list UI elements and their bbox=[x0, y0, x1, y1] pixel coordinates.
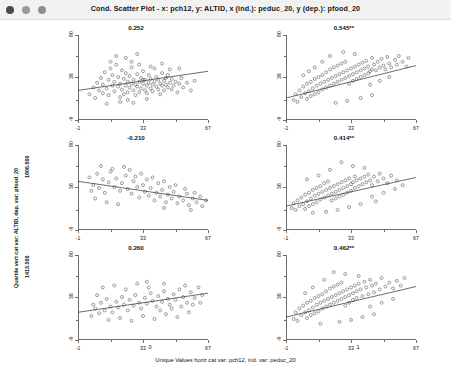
scatter-point bbox=[164, 83, 167, 86]
x-tick-label: 33 bbox=[140, 125, 146, 131]
scatter-point bbox=[155, 76, 158, 79]
scatter-point bbox=[185, 81, 188, 84]
scatter-point bbox=[371, 284, 374, 287]
scatter-point bbox=[336, 283, 339, 286]
scatter-point bbox=[355, 71, 358, 74]
scatter-point bbox=[311, 203, 314, 206]
scatter-point bbox=[369, 278, 372, 281]
scatter-point bbox=[130, 60, 133, 63]
scatter-point bbox=[313, 93, 316, 96]
regression-line bbox=[286, 287, 416, 318]
y-tick-label: 36 bbox=[68, 180, 74, 192]
scatter-point bbox=[88, 93, 91, 96]
scatter-point bbox=[344, 179, 347, 182]
scatter-point bbox=[172, 293, 175, 296]
scatter-point bbox=[353, 65, 356, 68]
scatter-point bbox=[124, 84, 127, 87]
scatter-point bbox=[117, 76, 120, 79]
scatter-points-layer bbox=[78, 35, 208, 120]
scatter-point bbox=[180, 76, 183, 79]
x-tick-label: 67 bbox=[205, 235, 211, 241]
scatter-point bbox=[147, 194, 150, 197]
x-minor-tick bbox=[176, 230, 177, 232]
scatter-point bbox=[315, 303, 318, 306]
scatter-point bbox=[168, 81, 171, 84]
x-minor-tick bbox=[176, 340, 177, 342]
scatter-point bbox=[350, 318, 353, 321]
y-tick-label: 80 bbox=[68, 248, 74, 260]
scatter-point bbox=[132, 101, 135, 104]
scatter-point bbox=[365, 286, 368, 289]
scatter-point bbox=[142, 184, 145, 187]
column-label-1: 1 bbox=[268, 344, 448, 350]
scatter-point bbox=[342, 71, 345, 74]
scatter-point bbox=[174, 80, 177, 83]
scatter-point bbox=[407, 56, 410, 59]
scatter-point bbox=[99, 165, 102, 168]
scatter-point bbox=[323, 299, 326, 302]
scatter-point bbox=[105, 297, 108, 300]
scatter-point bbox=[120, 296, 123, 299]
scatter-point bbox=[119, 96, 122, 99]
scatter-point bbox=[170, 77, 173, 80]
x-tick bbox=[416, 120, 417, 123]
scatter-point bbox=[393, 187, 396, 190]
y-tick-label: 36 bbox=[276, 70, 282, 82]
scatter-point bbox=[319, 185, 322, 188]
scatter-point bbox=[340, 78, 343, 81]
scatter-point bbox=[361, 295, 364, 298]
scatter-point bbox=[369, 179, 372, 182]
scatter-point bbox=[378, 66, 381, 69]
scatter-point bbox=[367, 173, 370, 176]
scatter-point bbox=[199, 301, 202, 304]
scatter-point bbox=[298, 307, 301, 310]
scatter-point bbox=[382, 177, 385, 180]
scatter-point bbox=[172, 84, 175, 87]
scatter-point bbox=[325, 290, 328, 293]
scatter-point bbox=[369, 305, 372, 308]
scatter-point bbox=[332, 185, 335, 188]
scatter-point bbox=[401, 60, 404, 63]
scatter-point bbox=[111, 167, 114, 170]
scatter-point bbox=[101, 178, 104, 181]
scatter-point bbox=[374, 69, 377, 72]
scatter-point bbox=[336, 299, 339, 302]
scatter-point bbox=[185, 192, 188, 195]
scatter-point bbox=[155, 85, 158, 88]
scatter-point bbox=[392, 287, 395, 290]
scatter-panel-r2-c0: 0.260-93680-13367 bbox=[60, 244, 212, 354]
x-tick-label: 67 bbox=[413, 125, 419, 131]
x-tick bbox=[143, 340, 144, 343]
scatter-point bbox=[317, 91, 320, 94]
scatter-point bbox=[170, 88, 173, 91]
scatter-point bbox=[111, 74, 114, 77]
scatter-point bbox=[328, 55, 331, 58]
scatter-point bbox=[142, 70, 145, 73]
x-tick bbox=[416, 340, 417, 343]
scatter-point bbox=[122, 77, 125, 80]
scatter-point bbox=[311, 306, 314, 309]
scatter-point bbox=[306, 178, 309, 181]
scatter-point bbox=[182, 86, 185, 89]
scatter-point bbox=[115, 55, 118, 58]
x-tick-label: -1 bbox=[284, 125, 289, 131]
scatter-point bbox=[304, 193, 307, 196]
scatter-point bbox=[401, 184, 404, 187]
scatter-point bbox=[103, 71, 106, 74]
scatter-point bbox=[309, 80, 312, 83]
scatter-point bbox=[88, 176, 91, 179]
scatter-point bbox=[178, 288, 181, 291]
scatter-point bbox=[334, 190, 337, 193]
scatter-point bbox=[346, 69, 349, 72]
scatter-point bbox=[344, 296, 347, 299]
x-minor-tick bbox=[111, 120, 112, 122]
scatter-point bbox=[334, 101, 337, 104]
scatter-point bbox=[132, 180, 135, 183]
scatter-point bbox=[338, 73, 341, 76]
scatter-point bbox=[323, 278, 326, 281]
y-tick-label: 36 bbox=[276, 180, 282, 192]
scatter-point bbox=[363, 280, 366, 283]
scatter-point bbox=[344, 60, 347, 63]
scatter-point bbox=[199, 195, 202, 198]
scatter-point bbox=[307, 191, 310, 194]
